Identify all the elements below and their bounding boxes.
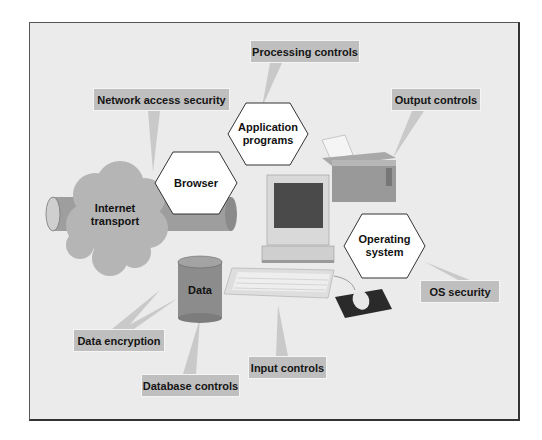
application-text-line2: programs: [243, 134, 294, 147]
pointer-output: [393, 111, 424, 158]
label-os-security: OS security: [420, 280, 500, 303]
os-text-line1: Operating: [359, 233, 411, 246]
pointer-os-security: [425, 262, 470, 280]
label-processing-controls: Processing controls: [250, 40, 360, 63]
pointer-database: [183, 318, 200, 374]
keyboard-image: [224, 268, 334, 298]
data-text: Data: [178, 270, 222, 310]
printer-image: [322, 135, 396, 202]
label-data-encryption: Data encryption: [73, 329, 165, 352]
label-output-controls: Output controls: [391, 88, 481, 111]
label-network-access-security: Network access security: [93, 88, 230, 111]
computer-monitor-image: [262, 175, 334, 263]
os-text-line2: system: [366, 246, 404, 259]
label-database-controls: Database controls: [141, 374, 240, 397]
os-text: Operating system: [344, 214, 425, 278]
browser-text: Browser: [155, 152, 237, 214]
internet-transport-text: Internet transport: [80, 200, 150, 230]
application-text: Application programs: [228, 103, 308, 165]
mouse-image: [334, 276, 392, 318]
pointer-input: [276, 305, 288, 356]
internet-text-line1: Internet: [95, 202, 135, 215]
pointer-encryption-2: [122, 298, 178, 329]
label-input-controls: Input controls: [248, 356, 327, 379]
pointer-processing: [262, 63, 282, 107]
internet-text-line2: transport: [91, 215, 139, 228]
application-text-line1: Application: [238, 121, 298, 134]
